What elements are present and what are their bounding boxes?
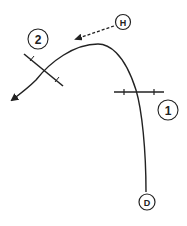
marker-2-label: 2 (35, 33, 42, 47)
cross-section-1 (114, 89, 164, 95)
marker-1: 1 (158, 100, 178, 120)
diagram-canvas: H 2 1 D (0, 0, 187, 226)
h-label: H (120, 18, 127, 28)
marker-2: 2 (28, 29, 48, 49)
d-node: D (139, 194, 155, 210)
h-dashed-arrow (76, 26, 114, 39)
marker-1-label: 1 (165, 104, 172, 118)
h-node: H (116, 15, 131, 30)
trajectory-curve (12, 44, 146, 192)
d-label: D (144, 198, 151, 208)
